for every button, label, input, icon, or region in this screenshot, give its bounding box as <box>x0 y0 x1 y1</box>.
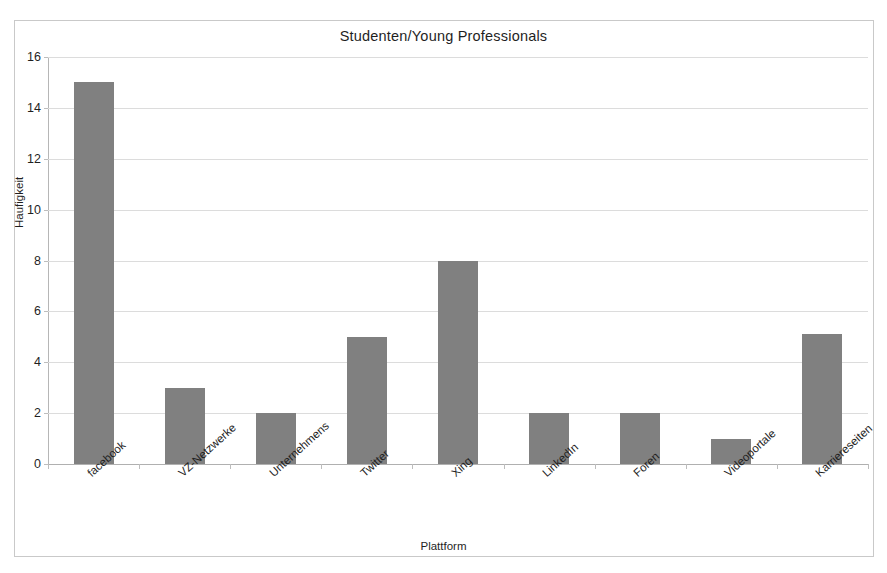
x-axis-title: Plattform <box>0 540 887 552</box>
y-tick-mark <box>44 159 48 160</box>
x-tick-mark <box>777 464 778 469</box>
x-tick-mark <box>412 464 413 469</box>
y-tick-mark <box>44 210 48 211</box>
x-tick-mark <box>504 464 505 469</box>
y-tick-mark <box>44 311 48 312</box>
y-tick-label: 2 <box>34 406 41 420</box>
gridline <box>48 57 868 58</box>
y-tick-mark <box>44 57 48 58</box>
x-tick-mark <box>686 464 687 469</box>
y-axis-title: Haufigkeit <box>13 177 25 228</box>
bar[interactable] <box>347 337 387 464</box>
y-tick-label: 8 <box>34 254 41 268</box>
bar[interactable] <box>74 82 114 464</box>
x-tick-mark <box>868 464 869 469</box>
x-tick-mark <box>139 464 140 469</box>
y-tick-mark <box>44 413 48 414</box>
gridline <box>48 159 868 160</box>
bar[interactable] <box>802 334 842 464</box>
y-tick-label: 10 <box>27 203 41 217</box>
x-tick-mark <box>595 464 596 469</box>
y-tick-mark <box>44 362 48 363</box>
y-tick-mark <box>44 108 48 109</box>
x-tick-mark <box>321 464 322 469</box>
y-tick-label: 14 <box>27 101 41 115</box>
y-tick-mark <box>44 261 48 262</box>
chart-title: Studenten/Young Professionals <box>0 28 887 44</box>
bar[interactable] <box>438 261 478 465</box>
gridline <box>48 108 868 109</box>
y-tick-label: 12 <box>27 152 41 166</box>
y-tick-label: 4 <box>34 355 41 369</box>
plot-area: 0246810121416 <box>48 57 868 464</box>
y-tick-label: 6 <box>34 304 41 318</box>
y-tick-label: 16 <box>27 50 41 64</box>
x-tick-mark <box>48 464 49 469</box>
y-tick-label: 0 <box>34 457 41 471</box>
x-tick-mark <box>230 464 231 469</box>
gridline <box>48 210 868 211</box>
chart-figure: Studenten/Young Professionals Haufigkeit… <box>0 0 887 573</box>
